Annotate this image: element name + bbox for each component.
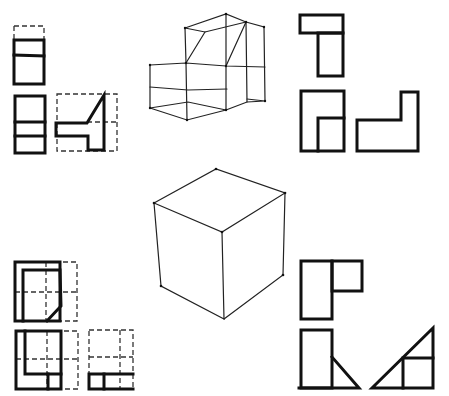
bottom-right-front-view bbox=[299, 330, 359, 388]
bottom-right-side-view bbox=[372, 328, 433, 388]
bottom-left-front-view bbox=[16, 331, 78, 389]
top-left-top-view bbox=[14, 26, 44, 84]
top-left-views bbox=[14, 26, 117, 153]
top-center-isometric bbox=[149, 13, 266, 121]
bottom-right-top-view bbox=[301, 261, 362, 319]
bottom-left-side-view bbox=[89, 330, 133, 389]
top-right-front-view bbox=[301, 91, 344, 151]
center-cube bbox=[153, 168, 287, 319]
top-right-top-view bbox=[300, 15, 343, 76]
top-left-front-view bbox=[15, 96, 45, 153]
sketch-canvas bbox=[0, 0, 449, 396]
top-right-side-view bbox=[357, 92, 418, 151]
bottom-left-top-view bbox=[15, 262, 77, 321]
top-left-side-view bbox=[56, 94, 117, 151]
bottom-right-views bbox=[299, 261, 433, 388]
bottom-left-views bbox=[15, 262, 133, 389]
top-right-views bbox=[300, 15, 418, 151]
